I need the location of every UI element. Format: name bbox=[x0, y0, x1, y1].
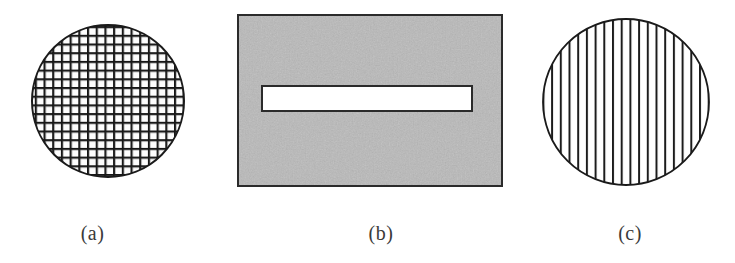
panel-b: (b) bbox=[228, 0, 518, 263]
slotted-plate-graphic bbox=[228, 0, 518, 210]
mesh-pattern-fill bbox=[28, 21, 190, 183]
caption-c: (c) bbox=[525, 222, 735, 245]
mesh-fill-group bbox=[28, 21, 190, 183]
plate-slot bbox=[262, 86, 472, 111]
slot-fill bbox=[262, 86, 472, 111]
panel-a: (a) bbox=[0, 0, 245, 263]
striped-circle-graphic bbox=[525, 0, 735, 210]
panel-c: (c) bbox=[525, 0, 735, 263]
caption-a: (a) bbox=[0, 222, 215, 245]
mesh-circle-graphic bbox=[0, 0, 245, 210]
figure-root: (a) bbox=[0, 0, 735, 263]
caption-b: (b) bbox=[236, 222, 526, 245]
